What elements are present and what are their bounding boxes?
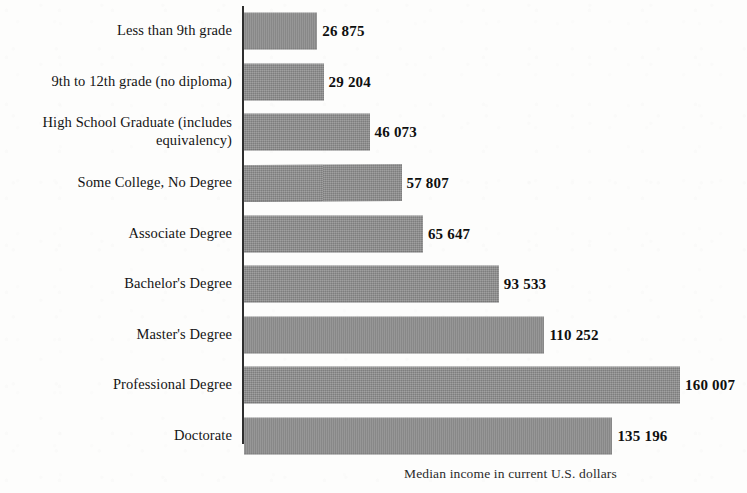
bar-track: 26 875 bbox=[244, 13, 365, 50]
bar-row: Associate Degree65 647 bbox=[0, 208, 747, 259]
bar-row: High School Graduate (includesequivalenc… bbox=[0, 107, 747, 158]
bar-row: Doctorate135 196 bbox=[0, 411, 747, 462]
bar-category-label-line: Associate Degree bbox=[0, 225, 232, 243]
bar-value-label: 110 252 bbox=[549, 326, 598, 343]
bar-category-label-line: Professional Degree bbox=[0, 377, 232, 395]
bar bbox=[244, 114, 370, 151]
x-axis-caption: Median income in current U.S. dollars bbox=[404, 466, 617, 482]
bar-track: 93 533 bbox=[244, 266, 546, 303]
bar bbox=[244, 367, 680, 404]
bar bbox=[244, 13, 317, 50]
bar-category-label: Master's Degree bbox=[0, 326, 232, 344]
bar-row: Some College, No Degree57 807 bbox=[0, 158, 747, 209]
bar-category-label: Some College, No Degree bbox=[0, 174, 232, 192]
bar-row: 9th to 12th grade (no diploma)29 204 bbox=[0, 57, 747, 108]
bar-category-label-line: equivalency) bbox=[0, 132, 232, 150]
bar-track: 160 007 bbox=[244, 367, 735, 404]
bar-track: 29 204 bbox=[244, 63, 371, 100]
bar-value-label: 57 807 bbox=[407, 175, 449, 192]
bar-category-label: Associate Degree bbox=[0, 225, 232, 243]
bar bbox=[244, 164, 402, 202]
bar-category-label-line: Master's Degree bbox=[0, 326, 232, 344]
bar bbox=[244, 316, 544, 353]
bar-category-label-line: Some College, No Degree bbox=[0, 174, 232, 192]
bar bbox=[244, 266, 499, 303]
bar-value-label: 160 007 bbox=[685, 377, 735, 394]
bar-row: Professional Degree160 007 bbox=[0, 360, 747, 411]
bar-category-label-line: Doctorate bbox=[0, 427, 232, 445]
bar-category-label: 9th to 12th grade (no diploma) bbox=[0, 73, 232, 91]
bar-row: Less than 9th grade26 875 bbox=[0, 6, 747, 57]
bar-value-label: 26 875 bbox=[322, 23, 364, 40]
bar bbox=[244, 63, 324, 100]
bar-category-label-line: 9th to 12th grade (no diploma) bbox=[0, 73, 232, 91]
bar-track: 65 647 bbox=[244, 215, 470, 252]
bar-value-label: 93 533 bbox=[504, 276, 546, 293]
bar-chart-figure: Less than 9th grade26 8759th to 12th gra… bbox=[0, 0, 747, 493]
bar-category-label: Bachelor's Degree bbox=[0, 275, 232, 293]
bar-row: Bachelor's Degree93 533 bbox=[0, 259, 747, 310]
bar bbox=[244, 215, 423, 252]
bar-value-label: 135 196 bbox=[617, 428, 667, 445]
bar-row: Master's Degree110 252 bbox=[0, 310, 747, 361]
bar-track: 135 196 bbox=[244, 418, 668, 455]
bar bbox=[244, 418, 612, 455]
bar-value-label: 29 204 bbox=[329, 73, 371, 90]
bar-track: 46 073 bbox=[244, 114, 417, 151]
bar-category-label-line: High School Graduate (includes bbox=[0, 115, 232, 133]
bar-track: 110 252 bbox=[244, 316, 599, 353]
plot-area: Less than 9th grade26 8759th to 12th gra… bbox=[0, 0, 747, 455]
bar-category-label-line: Less than 9th grade bbox=[0, 22, 232, 40]
bar-category-label: Doctorate bbox=[0, 427, 232, 445]
bar-category-label-line: Bachelor's Degree bbox=[0, 275, 232, 293]
bar-category-label: Professional Degree bbox=[0, 377, 232, 395]
bar-track: 57 807 bbox=[244, 165, 449, 202]
bar-value-label: 46 073 bbox=[375, 124, 417, 141]
bar-category-label: Less than 9th grade bbox=[0, 22, 232, 40]
bar-value-label: 65 647 bbox=[428, 225, 470, 242]
bar-category-label: High School Graduate (includesequivalenc… bbox=[0, 115, 232, 150]
